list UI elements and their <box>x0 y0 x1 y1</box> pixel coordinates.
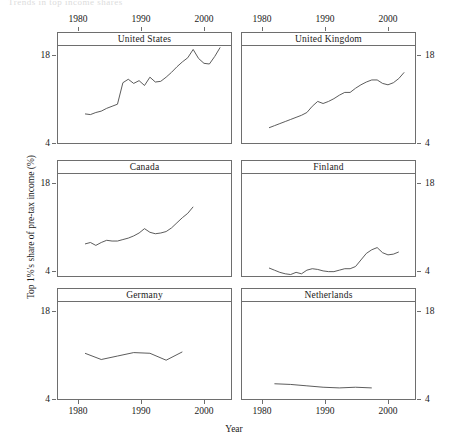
plot-area-canada[interactable] <box>57 174 232 277</box>
x-tick-label-top-left-1980: 1980 <box>69 14 88 24</box>
strip-label-canada: Canada <box>57 160 232 174</box>
plot-area-finland[interactable] <box>241 174 416 277</box>
y-tick-label-right-row2-18: 18 <box>425 178 435 188</box>
trellis-grid: 1980 1990 2000 1980 1990 2000 United Sta… <box>0 0 468 445</box>
x-tick-label-top-right-2000: 2000 <box>379 14 398 24</box>
y-tick-label-left-row2-4: 4 <box>30 266 50 276</box>
chart-root: Trends in top income shares Top 1%'s sha… <box>0 0 468 445</box>
series-line-finland <box>242 174 415 276</box>
series-line-canada <box>58 174 231 276</box>
x-tick-mark-bottom-left-2000 <box>204 400 205 404</box>
plot-area-united-states[interactable] <box>57 46 232 144</box>
x-tick-label-bottom-left-1980: 1980 <box>69 406 88 416</box>
y-tick-mark-left-row2-18 <box>52 183 56 184</box>
y-tick-label-right-row2-4: 4 <box>425 266 430 276</box>
series-line-united-states <box>58 46 231 143</box>
panel-united-states[interactable]: United States <box>57 32 232 144</box>
y-tick-mark-left-row2-4 <box>52 271 56 272</box>
strip-label-finland: Finland <box>241 160 416 174</box>
x-tick-label-bottom-right-1980: 1980 <box>253 406 272 416</box>
x-tick-mark-top-left-2000 <box>204 27 205 31</box>
strip-label-united-kingdom: United Kingdom <box>241 32 416 46</box>
y-tick-label-right-row1-4: 4 <box>425 138 430 148</box>
series-line-united-kingdom <box>242 46 415 143</box>
y-tick-mark-right-row3-18 <box>417 311 421 312</box>
x-tick-mark-top-right-2000 <box>388 27 389 31</box>
y-tick-label-left-row3-4: 4 <box>30 394 50 404</box>
x-tick-label-bottom-left-2000: 2000 <box>195 406 214 416</box>
x-tick-mark-bottom-left-1990 <box>141 400 142 404</box>
strip-label-germany: Germany <box>57 288 232 302</box>
strip-label-netherlands: Netherlands <box>241 288 416 302</box>
panel-canada[interactable]: Canada <box>57 160 232 277</box>
series-line-germany <box>58 302 231 399</box>
x-tick-label-top-left-2000: 2000 <box>195 14 214 24</box>
y-tick-label-left-row1-4: 4 <box>30 138 50 148</box>
panel-netherlands[interactable]: Netherlands <box>241 288 416 400</box>
x-tick-label-top-right-1980: 1980 <box>253 14 272 24</box>
y-tick-mark-right-row1-4 <box>417 143 421 144</box>
y-tick-mark-right-row3-4 <box>417 399 421 400</box>
x-tick-mark-top-left-1980 <box>78 27 79 31</box>
x-tick-label-bottom-right-1990: 1990 <box>316 406 335 416</box>
y-tick-mark-left-row1-18 <box>52 55 56 56</box>
plot-area-netherlands[interactable] <box>241 302 416 400</box>
y-tick-label-left-row1-18: 18 <box>30 50 50 60</box>
series-line-netherlands <box>242 302 415 399</box>
plot-area-united-kingdom[interactable] <box>241 46 416 144</box>
x-tick-mark-bottom-right-1980 <box>262 400 263 404</box>
y-tick-mark-left-row1-4 <box>52 143 56 144</box>
y-tick-label-left-row2-18: 18 <box>30 178 50 188</box>
y-tick-mark-right-row2-18 <box>417 183 421 184</box>
x-tick-label-top-right-1990: 1990 <box>316 14 335 24</box>
x-tick-mark-bottom-left-1980 <box>78 400 79 404</box>
x-tick-mark-top-right-1990 <box>325 27 326 31</box>
y-tick-label-left-row3-18: 18 <box>30 306 50 316</box>
x-tick-mark-top-right-1980 <box>262 27 263 31</box>
strip-label-united-states: United States <box>57 32 232 46</box>
x-tick-label-top-left-1990: 1990 <box>132 14 151 24</box>
y-tick-mark-left-row3-18 <box>52 311 56 312</box>
y-tick-mark-right-row1-18 <box>417 55 421 56</box>
panel-germany[interactable]: Germany <box>57 288 232 400</box>
y-tick-label-right-row1-18: 18 <box>425 50 435 60</box>
x-tick-mark-bottom-right-2000 <box>388 400 389 404</box>
panel-united-kingdom[interactable]: United Kingdom <box>241 32 416 144</box>
x-tick-mark-bottom-right-1990 <box>325 400 326 404</box>
panel-finland[interactable]: Finland <box>241 160 416 277</box>
x-tick-label-bottom-right-2000: 2000 <box>379 406 398 416</box>
y-tick-label-right-row3-18: 18 <box>425 306 435 316</box>
y-tick-mark-right-row2-4 <box>417 271 421 272</box>
plot-area-germany[interactable] <box>57 302 232 400</box>
x-tick-label-bottom-left-1990: 1990 <box>132 406 151 416</box>
y-tick-label-right-row3-4: 4 <box>425 394 430 404</box>
y-tick-mark-left-row3-4 <box>52 399 56 400</box>
x-tick-mark-top-left-1990 <box>141 27 142 31</box>
